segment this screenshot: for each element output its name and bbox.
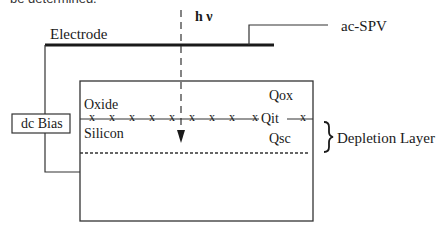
- brace-icon: [324, 122, 333, 152]
- ac-spv-lead: [249, 25, 328, 45]
- qsc-label: Qsc: [269, 132, 291, 146]
- arrow-down-icon: [177, 130, 185, 143]
- light-label: h ν: [195, 10, 213, 24]
- svg-text:x: x: [300, 110, 306, 124]
- svg-text:x: x: [89, 110, 95, 124]
- qit-label: Qit: [261, 112, 279, 126]
- oxide-label: Oxide: [84, 98, 118, 112]
- svg-text:x: x: [129, 110, 135, 124]
- ac-spv-label: ac-SPV: [341, 19, 387, 33]
- svg-text:x: x: [209, 110, 215, 124]
- svg-text:x: x: [189, 110, 195, 124]
- svg-text:x: x: [169, 110, 175, 124]
- svg-text:x: x: [229, 110, 235, 124]
- dc-bias-label: dc Bias: [21, 117, 63, 131]
- wire-bias-to-substrate: [45, 133, 80, 172]
- svg-text:x: x: [252, 110, 258, 124]
- qox-label: Qox: [269, 89, 293, 103]
- svg-text:x: x: [109, 110, 115, 124]
- electrode-label: Electrode: [50, 27, 107, 41]
- svg-text:x: x: [149, 110, 155, 124]
- silicon-label: Silicon: [84, 127, 124, 141]
- depletion-layer-label: Depletion Layer: [337, 131, 435, 145]
